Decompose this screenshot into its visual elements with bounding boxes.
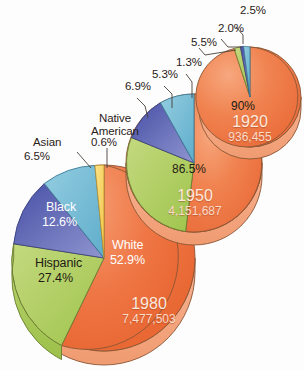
label-1980-black-pct: 12.6%	[42, 215, 77, 229]
label-1980-white-name: White	[112, 238, 143, 252]
label-1980-asian-pct: 6.5%	[24, 150, 50, 163]
year-label-1980: 1980	[98, 296, 200, 313]
pie-chart-figure: 2.5% 2.0% 5.5% 90% 1920 936,455 1.3% 5.3…	[0, 0, 304, 370]
label-1920-asian: 2.5%	[240, 4, 266, 17]
label-1950-asian: 1.3%	[176, 56, 202, 69]
leader-1980-asian	[77, 152, 91, 168]
label-1920-black: 2.0%	[218, 22, 244, 35]
year-block-1950: 1950 4,151,687	[149, 188, 241, 217]
label-1950-white: 86.5%	[172, 162, 206, 176]
leader-1920-black	[221, 39, 242, 47]
year-block-1920: 1920 936,455	[206, 114, 294, 143]
year-block-1980: 1980 7,477,503	[98, 296, 200, 325]
population-label-1950: 4,151,687	[149, 205, 241, 218]
label-1980-native-pct: 0.6%	[91, 136, 117, 149]
label-1950-black: 5.3%	[152, 68, 178, 81]
population-label-1980: 7,477,503	[98, 313, 200, 326]
label-1980-native-american: Native American	[84, 112, 146, 138]
label-1920-hispanic: 5.5%	[191, 36, 217, 49]
label-1980-hispanic-pct: 27.4%	[38, 271, 73, 285]
label-1980-white-pct: 52.9%	[110, 253, 145, 267]
population-label-1920: 936,455	[206, 131, 294, 144]
label-1980-hispanic-name: Hispanic	[35, 256, 82, 270]
label-1980-black-name: Black	[46, 200, 76, 214]
year-label-1950: 1950	[149, 188, 241, 205]
label-1950-hispanic: 6.9%	[125, 80, 151, 93]
label-1920-white: 90%	[231, 99, 255, 113]
label-1980-native-line1: Native	[99, 112, 131, 124]
label-1980-asian-name: Asian	[33, 136, 61, 149]
year-label-1920: 1920	[206, 114, 294, 131]
